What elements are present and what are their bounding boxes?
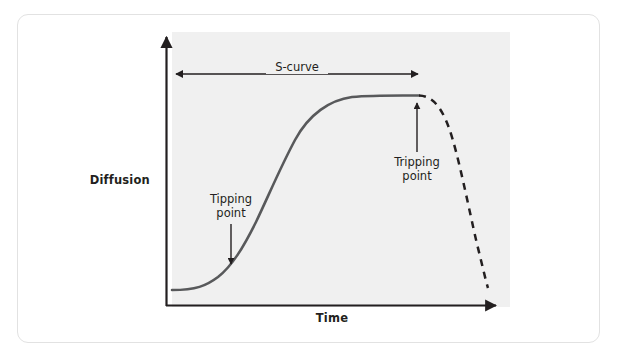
tipping-point-label-line1: Tipping — [209, 192, 252, 206]
diffusion-s-curve-chart: S-curve Tipping point Tripping point Dif… — [0, 0, 618, 357]
x-axis-title: Time — [316, 311, 348, 325]
figure-root: S-curve Tipping point Tripping point Dif… — [0, 0, 618, 357]
chart-canvas: S-curve Tipping point Tripping point Dif… — [0, 0, 618, 357]
s-curve-label: S-curve — [275, 60, 319, 74]
tipping-point-label-line2: point — [216, 206, 246, 220]
tripping-point-label-line1: Tripping — [393, 155, 440, 169]
y-axis-title: Diffusion — [90, 173, 150, 187]
tripping-point-label-line2: point — [402, 169, 432, 183]
